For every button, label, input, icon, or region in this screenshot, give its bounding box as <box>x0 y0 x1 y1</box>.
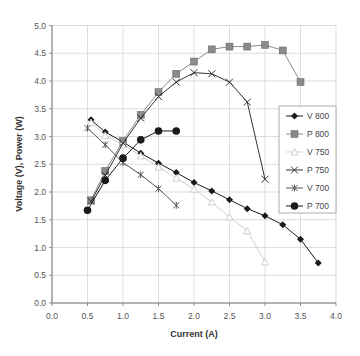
x-tick-label: 1.0 <box>117 311 129 321</box>
chart: 0.00.51.01.52.02.53.03.54.04.55.00.00.51… <box>0 0 360 356</box>
circle-marker <box>137 136 145 144</box>
triangle-marker <box>173 175 180 182</box>
x-tick-label: 3.5 <box>295 311 307 321</box>
square-marker <box>226 43 233 50</box>
star-marker <box>102 141 108 148</box>
circle-marker <box>172 127 180 135</box>
y-tick-label: 3.5 <box>34 104 46 114</box>
circle-marker <box>119 154 127 162</box>
y-tick-label: 5.0 <box>34 21 46 31</box>
x-tick-label: 4.0 <box>330 311 342 321</box>
y-tick-label: 0.5 <box>34 270 46 280</box>
diamond-marker <box>262 212 269 219</box>
legend: V 800P 800V 750P 750V 700P 700 <box>279 106 336 213</box>
triangle-marker <box>191 186 198 193</box>
square-marker <box>262 41 269 48</box>
series-line <box>88 128 177 205</box>
x-tick-label: 3.0 <box>259 311 271 321</box>
y-tick-label: 2.0 <box>34 187 46 197</box>
y-tick-label: 4.5 <box>34 48 46 58</box>
square-marker <box>208 46 215 53</box>
series-p-800 <box>88 41 304 203</box>
triangle-marker <box>208 198 215 205</box>
legend-item: P 800 <box>286 129 329 139</box>
legend-label: V 700 <box>307 183 329 193</box>
x-tick-label: 2.0 <box>188 311 200 321</box>
x-tick-label: 1.5 <box>153 311 165 321</box>
y-tick-label: 1.0 <box>34 243 46 253</box>
y-tick-label: 3.0 <box>34 132 46 142</box>
legend-label: V 800 <box>307 111 329 121</box>
circle-marker <box>155 127 163 135</box>
y-tick-label: 4.0 <box>34 76 46 86</box>
legend-label: P 750 <box>307 165 329 175</box>
star-marker <box>85 125 91 132</box>
y-axis-label: Voltage (V), Power (W) <box>14 116 24 211</box>
triangle-marker <box>262 258 269 265</box>
y-tick-label: 0.0 <box>34 298 46 308</box>
legend-label: P 800 <box>307 129 329 139</box>
diamond-marker <box>226 196 233 203</box>
circle-marker <box>84 207 92 215</box>
circle-marker <box>101 177 109 185</box>
x-tick-label: 2.5 <box>224 311 236 321</box>
square-marker <box>173 70 180 77</box>
diamond-marker <box>315 260 322 267</box>
legend-label: P 700 <box>307 201 329 211</box>
square-marker <box>279 47 286 54</box>
star-marker <box>156 185 162 192</box>
square-marker <box>191 58 198 65</box>
x-tick-label: 0.5 <box>82 311 94 321</box>
square-marker <box>291 131 298 138</box>
circle-marker <box>291 202 299 210</box>
square-marker <box>244 43 251 50</box>
y-tick-label: 2.5 <box>34 159 46 169</box>
diamond-marker <box>244 205 251 212</box>
x-marker <box>173 79 180 86</box>
series-p-700 <box>84 127 180 214</box>
star-marker <box>138 171 144 178</box>
x-marker <box>244 99 251 106</box>
square-marker <box>297 79 304 86</box>
x-axis-label: Current (A) <box>170 329 218 339</box>
diamond-marker <box>208 187 215 194</box>
x-tick-label: 0.0 <box>46 311 58 321</box>
legend-box <box>279 106 336 213</box>
legend-label: V 750 <box>307 147 329 157</box>
star-marker <box>173 202 179 209</box>
y-tick-label: 1.5 <box>34 215 46 225</box>
series-line <box>91 45 300 200</box>
series-line <box>88 131 177 210</box>
series-line <box>91 73 265 202</box>
